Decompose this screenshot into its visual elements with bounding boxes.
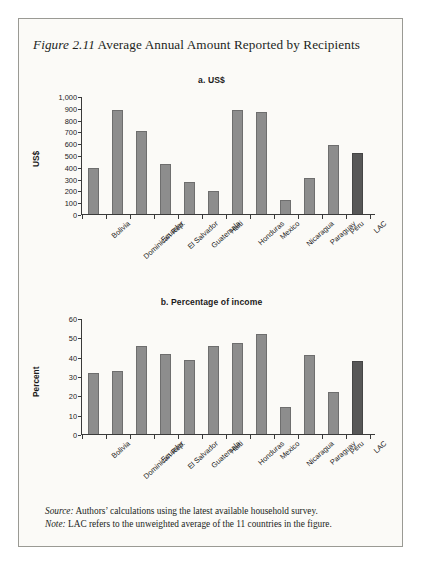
category-label: Ecuador xyxy=(159,219,185,244)
panel-b-xtick-mark xyxy=(370,435,371,439)
bar xyxy=(184,360,195,434)
panel-a-ytick-label: 1,000 xyxy=(39,93,77,102)
bar-slot xyxy=(226,319,250,434)
panel-a-title: a. US$ xyxy=(19,75,404,85)
panel-a-xtick-mark xyxy=(106,215,107,219)
bar-slot xyxy=(249,319,273,434)
panel-a-xtick-mark xyxy=(322,215,323,219)
category-label: LAC xyxy=(371,219,388,235)
bar xyxy=(88,168,99,214)
panel-b-ytick-label: 20 xyxy=(39,392,77,401)
panel-b-xtick-mark xyxy=(250,435,251,439)
panel-a-ytick-label: 300 xyxy=(39,175,77,184)
bar-slot xyxy=(202,97,226,214)
figure-number: Figure 2.11 xyxy=(33,37,95,52)
bar xyxy=(184,182,195,214)
bar-slot xyxy=(297,97,321,214)
bar xyxy=(112,110,123,214)
figure-card: Figure 2.11 Average Annual Amount Report… xyxy=(18,18,403,547)
bar-slot xyxy=(82,97,106,214)
panel-b-plot-area: 0102030405060 xyxy=(81,319,369,435)
panel-b-ytick-mark xyxy=(78,358,81,359)
panel-b-ytick-mark xyxy=(78,396,81,397)
note-line: Note: LAC refers to the unweighted avera… xyxy=(45,518,385,531)
chart-panel-percentage-of-income: b. Percentage of income Percent 01020304… xyxy=(19,297,404,497)
bar-slot xyxy=(297,319,321,434)
bar-slot xyxy=(154,319,178,434)
bar xyxy=(280,200,291,214)
panel-a-ytick-label: 500 xyxy=(39,152,77,161)
bar-slot xyxy=(106,319,130,434)
bar-slot xyxy=(130,97,154,214)
bar xyxy=(256,334,267,434)
bar-slot xyxy=(178,97,202,214)
panel-a-xtick-mark xyxy=(346,215,347,219)
bar-slot xyxy=(321,97,345,214)
bar xyxy=(256,112,267,214)
panel-a-xtick-mark xyxy=(130,215,131,219)
panel-b-ytick-mark xyxy=(78,416,81,417)
bar-slot xyxy=(273,97,297,214)
panel-a-ytick-mark xyxy=(78,203,81,204)
panel-a-ytick-label: 900 xyxy=(39,104,77,113)
panel-b-xtick-mark xyxy=(274,435,275,439)
category-label: LAC xyxy=(371,439,388,455)
panel-a-ytick-mark xyxy=(78,180,81,181)
panel-b-ytick-mark xyxy=(78,377,81,378)
panel-a-ytick-mark xyxy=(78,109,81,110)
bar xyxy=(88,373,99,434)
bar xyxy=(232,343,243,434)
panel-a-xtick-mark xyxy=(82,215,83,219)
panel-b-ytick-mark xyxy=(78,435,81,436)
bar xyxy=(208,346,219,434)
panel-b-xtick-mark xyxy=(346,435,347,439)
panel-b-ytick-label: 30 xyxy=(39,373,77,382)
panel-b-ytick-label: 50 xyxy=(39,334,77,343)
source-label: Source: xyxy=(45,506,74,516)
bar-slot xyxy=(345,319,369,434)
panel-a-xtick-mark xyxy=(250,215,251,219)
panel-a-ytick-label: 800 xyxy=(39,116,77,125)
bar xyxy=(304,178,315,214)
panel-b-title: b. Percentage of income xyxy=(19,297,404,307)
bar-slot xyxy=(249,97,273,214)
bar-slot xyxy=(154,97,178,214)
panel-b-xtick-mark xyxy=(322,435,323,439)
panel-a-xtick-mark xyxy=(202,215,203,219)
panel-a-ytick-mark xyxy=(78,121,81,122)
note-label: Note: xyxy=(45,519,66,529)
panel-b-xtick-mark xyxy=(154,435,155,439)
bar-slot xyxy=(273,319,297,434)
panel-a-xtick-mark xyxy=(226,215,227,219)
bar xyxy=(232,110,243,214)
panel-a-ytick-mark xyxy=(78,144,81,145)
panel-a-xtick-mark xyxy=(274,215,275,219)
panel-b-ytick-label: 60 xyxy=(39,315,77,324)
bar-slot xyxy=(321,319,345,434)
panel-b-xtick-mark xyxy=(226,435,227,439)
panel-a-ytick-label: 0 xyxy=(39,211,77,220)
category-label: Ecuador xyxy=(159,439,185,464)
bar xyxy=(352,153,363,214)
bar xyxy=(136,131,147,214)
bar xyxy=(136,346,147,434)
bar xyxy=(328,392,339,434)
category-label: Bolivia xyxy=(109,219,131,240)
panel-b-bars xyxy=(82,319,369,434)
bar-slot xyxy=(178,319,202,434)
panel-a-ytick-label: 200 xyxy=(39,187,77,196)
bar xyxy=(112,371,123,434)
bar-slot xyxy=(226,97,250,214)
panel-b-ytick-mark xyxy=(78,319,81,320)
panel-b-xtick-mark xyxy=(298,435,299,439)
panel-a-xtick-mark xyxy=(370,215,371,219)
panel-a-xtick-mark xyxy=(154,215,155,219)
panel-a-plot-area: 01002003004005006007008009001,000 xyxy=(81,97,369,215)
panel-a-ytick-mark xyxy=(78,132,81,133)
panel-b-ytick-mark xyxy=(78,338,81,339)
panel-b-ytick-label: 10 xyxy=(39,411,77,420)
panel-b-xtick-mark xyxy=(106,435,107,439)
bar-slot xyxy=(202,319,226,434)
bar xyxy=(160,164,171,214)
bar-slot xyxy=(106,97,130,214)
